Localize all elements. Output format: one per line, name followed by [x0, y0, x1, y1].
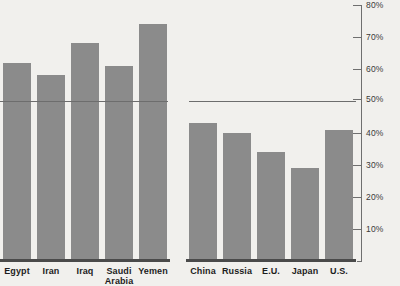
y-tick-label-40: 40% — [366, 129, 384, 138]
y-tick-50 — [353, 99, 361, 100]
category-label-saudi-line2: Arabia — [99, 276, 139, 286]
y-tick-80 — [353, 5, 361, 6]
y-tick-40 — [353, 133, 361, 134]
y-tick-label-20: 20% — [366, 193, 384, 202]
y-tick-30 — [353, 165, 361, 166]
baseline-right — [186, 259, 356, 262]
y-tick-label-30: 30% — [366, 161, 384, 170]
category-label-yemen: Yemen — [133, 266, 173, 276]
y-tick-label-10: 10% — [366, 225, 384, 234]
y-tick-10 — [353, 229, 361, 230]
plot-area — [0, 0, 356, 262]
category-label-us: U.S. — [319, 266, 359, 276]
bar-china — [189, 123, 217, 261]
bar-russia — [223, 133, 251, 261]
category-label-yemen-text: Yemen — [133, 266, 173, 276]
y-tick-label-60: 60% — [366, 65, 384, 74]
bar-iran — [37, 75, 65, 261]
bar-japan — [291, 168, 319, 261]
bar-saudi-arabia — [105, 66, 133, 261]
y-tick-label-50: 50% — [366, 95, 384, 104]
y-axis-line — [361, 5, 362, 262]
bar-us — [325, 130, 353, 261]
y-axis-bottom-cap — [357, 261, 362, 262]
reference-line-50-left — [0, 101, 168, 102]
y-tick-label-80: 80% — [366, 1, 384, 10]
y-tick-label-70: 70% — [366, 33, 384, 42]
bar-iraq — [71, 43, 99, 261]
bar-egypt — [3, 63, 31, 261]
baseline-left — [0, 259, 170, 262]
y-tick-20 — [353, 197, 361, 198]
y-tick-70 — [353, 37, 361, 38]
bar-eu — [257, 152, 285, 261]
category-label-us-text: U.S. — [319, 266, 359, 276]
y-tick-60 — [353, 69, 361, 70]
reference-line-50-right — [189, 101, 356, 102]
bar-yemen — [139, 24, 167, 261]
